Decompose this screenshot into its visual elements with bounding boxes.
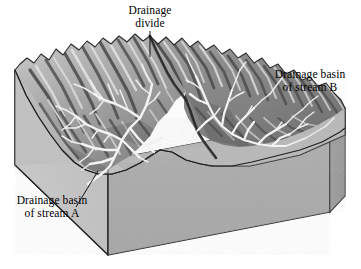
figure-root: Drainage divide Drainage basin of stream… — [0, 0, 361, 269]
label-drainage-divide-line1: Drainage — [104, 4, 196, 17]
label-basin-a-line2: of stream A — [6, 207, 98, 220]
block-diagram-illustration — [0, 0, 361, 269]
label-drainage-divide-line2: divide — [104, 17, 196, 30]
label-basin-b-line2: of stream B — [262, 81, 358, 94]
label-drainage-basin-b: Drainage basin of stream B — [262, 68, 358, 93]
label-drainage-divide: Drainage divide — [104, 4, 196, 29]
label-drainage-basin-a: Drainage basin of stream A — [6, 194, 98, 219]
label-basin-b-line1: Drainage basin — [262, 68, 358, 81]
label-basin-a-line1: Drainage basin — [6, 194, 98, 207]
